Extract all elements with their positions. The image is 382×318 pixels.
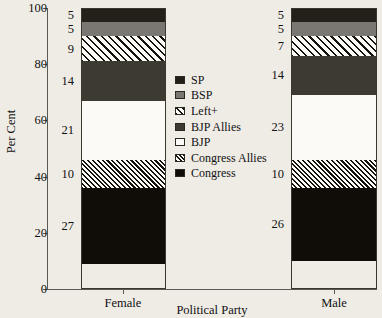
x-axis-line bbox=[47, 289, 377, 290]
y-tick-label: 0 bbox=[9, 283, 47, 295]
legend-label: BJP Allies bbox=[191, 121, 241, 133]
bar-female[interactable] bbox=[81, 8, 166, 289]
bar-segment-value: 10 bbox=[254, 168, 284, 180]
bar-segment[interactable] bbox=[291, 188, 377, 261]
stacked-bar-chart: 020406080100 Per Cent FemaleMale Politic… bbox=[0, 0, 382, 318]
legend-label: BJP bbox=[191, 136, 210, 148]
bar-segment-value: 5 bbox=[254, 9, 284, 21]
legend-item[interactable]: BJP Allies bbox=[175, 119, 267, 135]
bar-segment[interactable] bbox=[81, 36, 166, 61]
legend-label: Left+ bbox=[191, 105, 218, 117]
bar-segment-value: 14 bbox=[254, 69, 284, 81]
chart-legend: SPBSPLeft+BJP AlliesBJPCongress AlliesCo… bbox=[175, 72, 267, 181]
bar-segment-value: 5 bbox=[44, 23, 74, 35]
bar-segment-value: 5 bbox=[44, 9, 74, 21]
bar-segment-value: 21 bbox=[44, 124, 74, 136]
legend-label: SP bbox=[191, 74, 204, 86]
bar-male[interactable] bbox=[291, 8, 377, 289]
y-tick-label-wrap: 40 bbox=[0, 171, 47, 183]
y-axis-title: Per Cent bbox=[4, 92, 19, 172]
x-tick-mark bbox=[334, 289, 335, 294]
legend-swatch-icon bbox=[175, 107, 185, 115]
bar-segment[interactable] bbox=[291, 56, 377, 95]
bar-segment[interactable] bbox=[81, 101, 166, 160]
bar-segment-value: 5 bbox=[254, 23, 284, 35]
bar-segment-value: 27 bbox=[44, 220, 74, 232]
bar-segment[interactable] bbox=[291, 95, 377, 160]
legend-item[interactable]: BJP bbox=[175, 134, 267, 150]
bar-segment[interactable] bbox=[291, 160, 377, 188]
y-tick-label-wrap: 0 bbox=[0, 283, 47, 295]
bar-segment-value: 23 bbox=[254, 121, 284, 133]
legend-item[interactable]: Congress Allies bbox=[175, 150, 267, 166]
legend-swatch-icon bbox=[175, 91, 185, 99]
bar-segment[interactable] bbox=[81, 61, 166, 100]
legend-item[interactable]: SP bbox=[175, 72, 267, 88]
x-axis-title: Political Party bbox=[47, 303, 377, 318]
bar-segment[interactable] bbox=[81, 22, 166, 36]
bar-segment[interactable] bbox=[81, 188, 166, 264]
y-tick-label: 80 bbox=[9, 58, 47, 70]
y-tick-label: 40 bbox=[9, 171, 47, 183]
bar-segment-value: 10 bbox=[44, 168, 74, 180]
bar-segment-value: 14 bbox=[44, 75, 74, 87]
bar-segment[interactable] bbox=[291, 36, 377, 56]
y-tick-label-wrap: 20 bbox=[0, 227, 47, 239]
legend-label: BSP bbox=[191, 89, 212, 101]
legend-item[interactable]: Left+ bbox=[175, 103, 267, 119]
legend-swatch-icon bbox=[175, 169, 185, 177]
x-tick-mark bbox=[123, 289, 124, 294]
bar-segment-value: 7 bbox=[254, 40, 284, 52]
y-tick-label: 100 bbox=[9, 2, 47, 14]
y-tick-label: 20 bbox=[9, 227, 47, 239]
bar-segment[interactable] bbox=[81, 160, 166, 188]
legend-swatch-icon bbox=[175, 76, 185, 84]
bar-segment[interactable] bbox=[81, 8, 166, 22]
legend-label: Congress bbox=[191, 167, 236, 179]
bar-segment[interactable] bbox=[291, 22, 377, 36]
y-tick-label-wrap: 100 bbox=[0, 2, 47, 14]
legend-swatch-icon bbox=[175, 138, 185, 146]
legend-item[interactable]: Congress bbox=[175, 166, 267, 182]
legend-label: Congress Allies bbox=[191, 152, 267, 164]
bar-segment-value: 9 bbox=[44, 43, 74, 55]
legend-swatch-icon bbox=[175, 123, 185, 131]
legend-swatch-icon bbox=[175, 154, 185, 162]
bar-segment-value: 26 bbox=[254, 218, 284, 230]
bar-segment[interactable] bbox=[291, 8, 377, 22]
legend-item[interactable]: BSP bbox=[175, 88, 267, 104]
y-tick-label-wrap: 80 bbox=[0, 58, 47, 70]
